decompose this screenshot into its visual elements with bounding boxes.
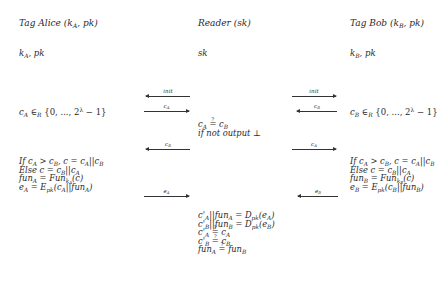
arrow-ca-to-bob: cA bbox=[292, 142, 336, 152]
arrow-cb-to-alice: cB bbox=[146, 142, 190, 152]
arrowhead-left-icon bbox=[297, 194, 301, 198]
arrow-ea-to-reader: eA bbox=[144, 189, 189, 199]
reader-keys: sk bbox=[198, 48, 208, 58]
arrowhead-right-icon bbox=[333, 94, 337, 98]
arrow-cb-to-reader: cB bbox=[297, 104, 337, 114]
arrow-init-to-alice: init bbox=[146, 89, 190, 99]
alice-random: cA ∈R {0, ..., 2λ − 1} bbox=[19, 107, 107, 117]
alice-keys: kA, pk bbox=[19, 48, 44, 58]
alice-compute: If cA > cB, c = cA||cB Else c = cB||cA f… bbox=[19, 157, 104, 192]
arrowhead-right-icon bbox=[186, 109, 190, 113]
arrow-ca-to-reader: cA bbox=[144, 104, 189, 114]
arrowhead-right-icon bbox=[333, 147, 337, 151]
bob-header: Tag Bob (kB, pk) bbox=[350, 18, 424, 28]
reader-verify: c'A||funA = Dpk(eA) c'B||funB = Dpk(eB) … bbox=[198, 211, 275, 254]
arrowhead-left-icon bbox=[145, 94, 149, 98]
reader-header: Reader (sk) bbox=[198, 18, 251, 28]
arrowhead-left-icon bbox=[296, 109, 300, 113]
bob-compute: If cA > cB, c = cA||cB Else c = cB||cA f… bbox=[350, 157, 435, 192]
arrow-init-to-bob: init bbox=[292, 89, 336, 99]
arrowhead-right-icon bbox=[186, 194, 190, 198]
bob-keys: kB, pk bbox=[350, 48, 376, 58]
arrow-eb-to-reader: eB bbox=[298, 189, 338, 199]
reader-check-equal: cA = cB if not output ⊥ bbox=[198, 120, 261, 137]
bob-random: cB ∈R {0, ..., 2λ − 1} bbox=[350, 107, 438, 117]
arrowhead-left-icon bbox=[145, 147, 149, 151]
alice-header: Tag Alice (kA, pk) bbox=[19, 18, 98, 28]
